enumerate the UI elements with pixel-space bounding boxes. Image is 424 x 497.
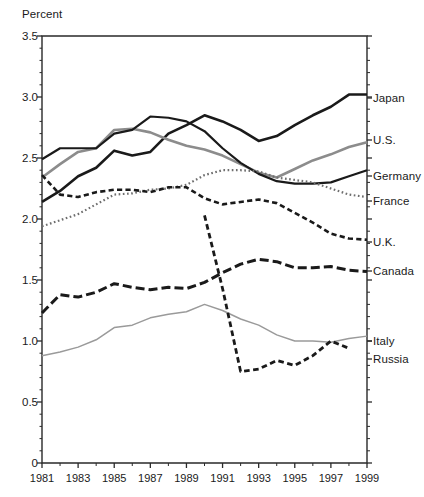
legend: JapanU.S.GermanyFranceU.K.CanadaItalyRus…	[0, 0, 424, 497]
legend-label-france: France	[373, 195, 409, 207]
legend-label-italy: Italy	[373, 335, 395, 347]
legend-label-canada: Canada	[373, 265, 414, 277]
legend-label-germany: Germany	[373, 170, 421, 182]
legend-label-u-s: U.S.	[373, 134, 396, 146]
legend-label-japan: Japan	[373, 92, 405, 104]
legend-label-russia: Russia	[373, 353, 409, 365]
legend-label-u-k: U.K.	[373, 236, 396, 248]
rnd-intensity-line-chart: Percent 00.51.01.52.02.53.03.5 198119831…	[0, 0, 424, 497]
